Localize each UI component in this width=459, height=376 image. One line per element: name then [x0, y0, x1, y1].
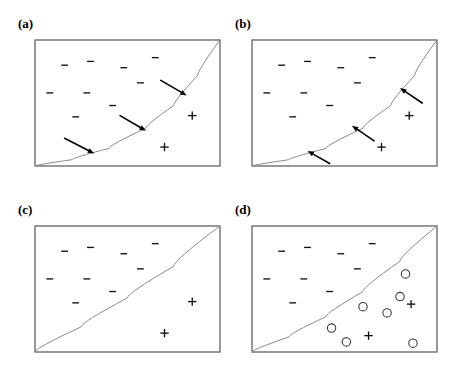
panel-plot-c — [29, 220, 226, 358]
panel-frame-c — [35, 226, 220, 352]
panel-label-b: (b) — [235, 17, 251, 30]
panel-plot-d — [246, 220, 443, 358]
figure-canvas: (a)(b)(c)(d) — [0, 0, 459, 376]
panel-plot-b — [246, 34, 443, 172]
panel-frame-d — [252, 226, 437, 352]
panel-plot-a — [29, 34, 226, 172]
panel-label-a: (a) — [18, 17, 33, 30]
panel-frame-a — [35, 40, 220, 166]
panel-label-d: (d) — [235, 203, 251, 216]
panel-frame-b — [252, 40, 437, 166]
panel-label-c: (c) — [18, 203, 32, 216]
